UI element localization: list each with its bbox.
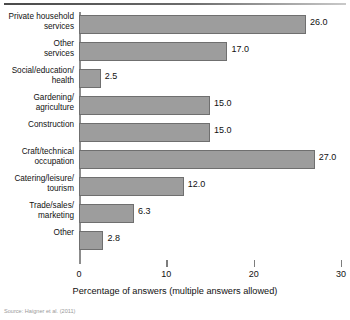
bar (79, 42, 227, 61)
source-note: Source: Haigner et al. (2011) (4, 308, 75, 315)
x-axis-tick-label: 20 (249, 269, 259, 280)
bar-value-label: 2.8 (107, 233, 120, 244)
x-axis-tick-label: 30 (336, 269, 346, 280)
bar-value-label: 27.0 (319, 152, 337, 163)
bar-value-label: 15.0 (214, 98, 232, 109)
bar (79, 204, 134, 223)
x-axis: 0102030 (0, 260, 350, 286)
x-axis-tick (166, 260, 167, 267)
bar-row: Other2.8 (0, 228, 350, 255)
bar-value-label: 15.0 (214, 125, 232, 136)
bar-row: Other services17.0 (0, 39, 350, 66)
bar-value-label: 12.0 (188, 179, 206, 190)
figure-container: Private household services26.0Other serv… (0, 0, 350, 320)
x-axis-tick (254, 260, 255, 267)
bar-value-label: 26.0 (310, 17, 328, 28)
category-label: Other services (0, 39, 74, 58)
category-label: Gardening/ agriculture (0, 93, 74, 112)
bar-row: Construction15.0 (0, 120, 350, 147)
x-axis-tick (341, 260, 342, 267)
bar-row: Private household services26.0 (0, 12, 350, 39)
bar-row: Gardening/ agriculture15.0 (0, 93, 350, 120)
x-axis-title: Percentage of answers (multiple answers … (0, 286, 350, 296)
bar (79, 15, 306, 34)
bar-row: Craft/technical occupation27.0 (0, 147, 350, 174)
bar (79, 96, 210, 115)
category-label: Other (0, 228, 74, 238)
bar-row: Catering/leisure/ tourism12.0 (0, 174, 350, 201)
category-label: Craft/technical occupation (0, 147, 74, 166)
top-divider-rule (4, 3, 346, 5)
plot-area: Private household services26.0Other serv… (0, 12, 350, 260)
category-label: Catering/leisure/ tourism (0, 174, 74, 193)
bar-value-label: 17.0 (231, 44, 249, 55)
bar-value-label: 6.3 (138, 206, 151, 217)
bar-row: Trade/sales/ marketing6.3 (0, 201, 350, 228)
category-label: Trade/sales/ marketing (0, 201, 74, 220)
x-axis-tick-label: 10 (161, 269, 171, 280)
bar (79, 150, 315, 169)
category-label: Social/education/ health (0, 66, 74, 85)
bar (79, 69, 101, 88)
bar (79, 123, 210, 142)
bar (79, 231, 103, 250)
bar-value-label: 2.5 (105, 71, 118, 82)
bar (79, 177, 184, 196)
category-label: Private household services (0, 12, 74, 31)
bar-row: Social/education/ health2.5 (0, 66, 350, 93)
category-label: Construction (0, 120, 74, 130)
x-axis-tick-label: 0 (76, 269, 81, 280)
